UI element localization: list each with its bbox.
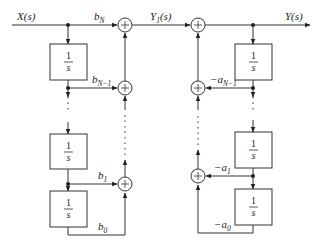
integrator-denominator: s (252, 150, 256, 161)
gain-b0: b0 (98, 220, 108, 235)
integrator-numerator: 1 (66, 140, 71, 151)
junction-dot (66, 182, 70, 186)
gain-bN: bN (94, 10, 106, 25)
gain-aN-1: −aN−1 (210, 73, 237, 88)
junction-dot (251, 86, 255, 90)
integrator-denominator: s (67, 62, 71, 73)
integrator-numerator: 1 (251, 195, 256, 206)
integrator-denominator: s (67, 209, 71, 220)
integrator-numerator: 1 (251, 138, 256, 149)
gain-a1: −a1 (214, 161, 231, 176)
integrator-numerator: 1 (251, 50, 256, 61)
gain-a0: −a0 (214, 218, 231, 233)
junction-dot (66, 23, 70, 27)
intermediate-label: Y1(s) (150, 10, 172, 25)
gain-bN-1: bN−1 (92, 73, 111, 88)
integrator-denominator: s (67, 152, 71, 163)
input-label: X(s) (16, 10, 36, 23)
integrator-numerator: 1 (66, 50, 71, 61)
gain-b1: b1 (98, 169, 107, 184)
output-label: Y(s) (285, 10, 303, 23)
integrator-denominator: s (252, 207, 256, 218)
integrator-numerator: 1 (66, 197, 71, 208)
block-diagram: 1 s 1 s 1 s 1 s 1 s 1 s X(s) Y1(s) Y(s) … (0, 0, 320, 250)
junction-dot (251, 23, 255, 27)
junction-dot (251, 174, 255, 178)
junction-dot (66, 86, 70, 90)
integrator-denominator: s (252, 62, 256, 73)
